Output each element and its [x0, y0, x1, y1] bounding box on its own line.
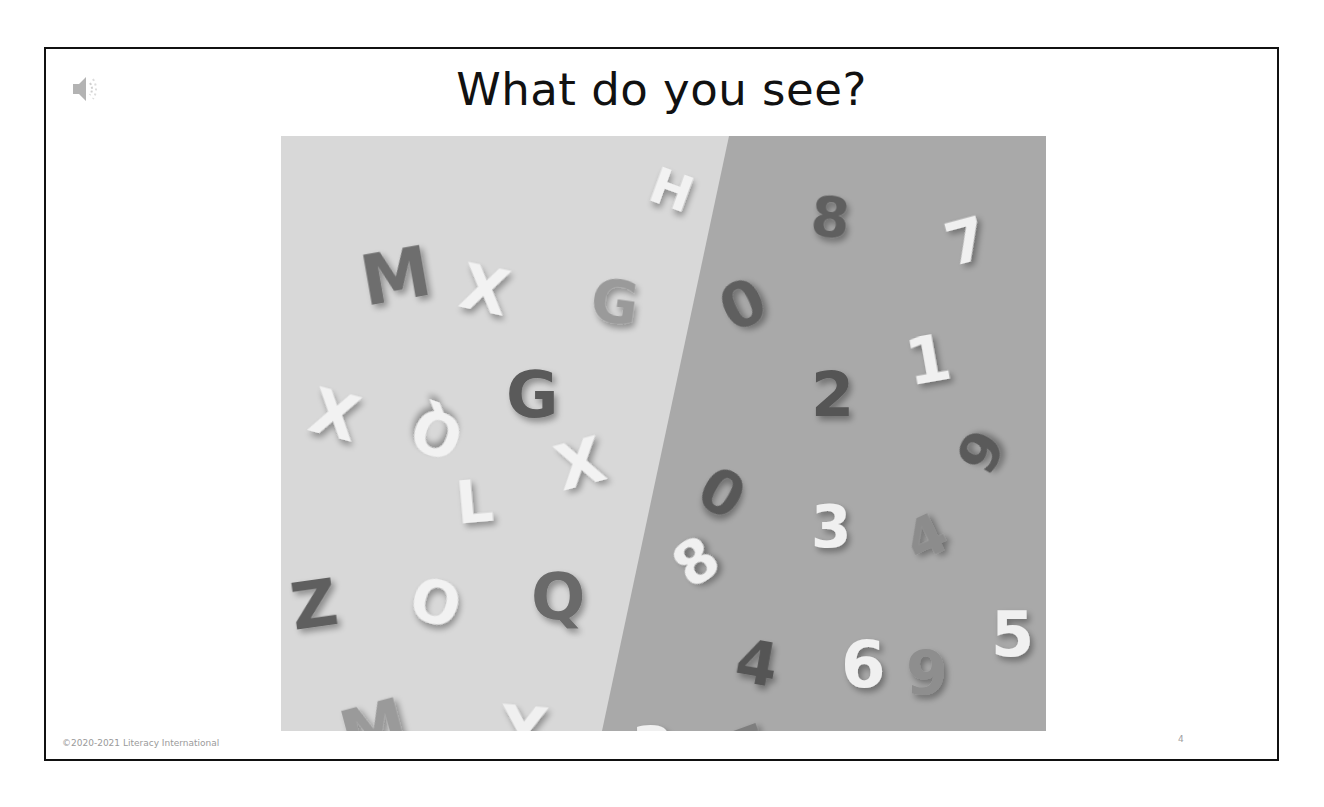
number-glyph: 6	[841, 628, 886, 702]
number-glyph: 8	[808, 182, 852, 250]
page-number: 4	[1178, 734, 1184, 744]
letter-glyph: Q	[531, 560, 585, 634]
letter-glyph: G	[506, 358, 559, 432]
letter-glyph: M	[354, 230, 437, 323]
number-glyph: 9	[906, 638, 948, 708]
copyright-footer: ©2020-2021 Literacy International	[62, 738, 219, 748]
letter-glyph: G	[586, 266, 643, 340]
number-glyph: 5	[991, 598, 1034, 671]
letters-numbers-photo: MXGGXQXLZOQMYH87012903484695352	[281, 136, 1046, 731]
slide-title: What do you see?	[46, 63, 1277, 116]
number-glyph: 3	[631, 713, 674, 731]
letter-glyph: L	[453, 467, 496, 538]
number-glyph: 3	[811, 493, 851, 561]
photo-canvas: MXGGXQXLZOQMYH87012903484695352	[281, 136, 1046, 731]
letter-glyph: Y	[497, 691, 550, 731]
slide-frame: What do you see? MXGGXQXLZOQMYH870129034…	[44, 47, 1279, 761]
number-glyph: 2	[811, 358, 854, 431]
